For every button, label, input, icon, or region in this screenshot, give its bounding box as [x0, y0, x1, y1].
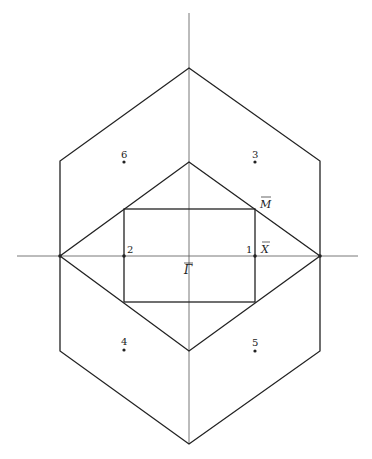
point-6-label: 6 — [121, 149, 127, 160]
m-point-label: M — [259, 198, 272, 211]
point-3-dot — [253, 160, 256, 163]
point-1-dot — [253, 254, 257, 258]
x-point-label: X — [260, 243, 270, 256]
point-1-label: 1 — [246, 244, 252, 255]
surface-brillouin-zone — [124, 209, 255, 302]
vertex-right — [318, 254, 322, 258]
point-2-dot — [122, 254, 126, 258]
point-2-label: 2 — [127, 244, 133, 255]
point-5-dot — [253, 349, 256, 352]
point-3-label: 3 — [252, 149, 258, 160]
point-6-dot — [122, 160, 125, 163]
gamma-label: Γ — [183, 263, 193, 277]
point-5-label: 5 — [252, 337, 258, 348]
vertex-left — [58, 254, 62, 258]
brillouin-zone-diagram: 1 2 3 4 5 6 Γ X M — [0, 0, 372, 459]
point-4-label: 4 — [121, 336, 127, 347]
inner-diamond — [60, 162, 320, 351]
point-4-dot — [122, 348, 125, 351]
